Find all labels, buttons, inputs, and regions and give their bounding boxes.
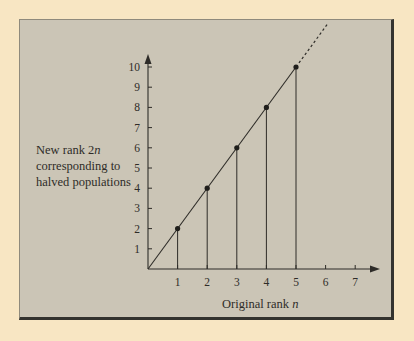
y-tick-label: 2 — [134, 223, 140, 235]
y-tick-label: 4 — [134, 182, 140, 194]
y-label-line-2: corresponding to — [36, 158, 131, 174]
y-tick-label: 1 — [134, 243, 140, 255]
x-tick-label: 7 — [352, 276, 358, 288]
y-axis-arrow-icon — [145, 54, 152, 64]
x-label-text: Original rank — [222, 297, 292, 311]
x-tick-label: 4 — [264, 276, 270, 288]
data-point — [293, 64, 298, 69]
trend-line-extension — [296, 25, 327, 67]
x-tick-label: 2 — [204, 276, 210, 288]
trend-line — [148, 67, 296, 269]
data-point — [264, 105, 269, 110]
data-point — [175, 226, 180, 231]
y-tick-label: 9 — [134, 81, 140, 93]
y-label-line-3: halved populations — [36, 174, 131, 190]
x-axis-arrow-icon — [370, 266, 380, 273]
y-tick-label: 6 — [134, 142, 140, 154]
x-tick-label: 5 — [293, 276, 299, 288]
x-tick-label: 3 — [234, 276, 240, 288]
y-label-line-1: New rank 2 — [36, 143, 94, 157]
x-label-variable: n — [292, 297, 298, 311]
y-tick-label: 7 — [134, 122, 140, 134]
y-tick-label: 5 — [134, 162, 140, 174]
x-tick-label: 6 — [323, 276, 329, 288]
data-point — [234, 145, 239, 150]
x-tick-label: 1 — [175, 276, 181, 288]
y-tick-label: 8 — [134, 101, 140, 113]
y-label-variable: n — [94, 143, 100, 157]
data-point — [205, 186, 210, 191]
y-tick-label: 3 — [134, 202, 140, 214]
y-tick-label: 10 — [129, 61, 141, 73]
y-axis-label: New rank 2n corresponding to halved popu… — [36, 142, 131, 190]
x-axis-label: Original rank n — [222, 297, 298, 312]
